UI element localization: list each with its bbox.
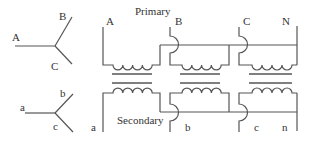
wye-label-a: A: [12, 31, 20, 43]
transformer-diagram: A B C a b c Primary A B C N: [0, 0, 312, 143]
secondary-winding-b: [170, 88, 229, 132]
secondary-winding-c: [239, 88, 297, 132]
secondary-wye-symbol: a b c: [20, 87, 73, 132]
terminal-c: c: [254, 121, 259, 133]
wye-label-b: B: [59, 10, 66, 22]
wye-label-c-secondary: c: [53, 120, 58, 132]
secondary-windings: Secondary a b c n: [91, 88, 297, 133]
primary-wye-symbol: A B C: [12, 10, 72, 72]
terminal-N: N: [282, 15, 290, 27]
terminal-n: n: [282, 121, 288, 133]
terminal-b: b: [185, 121, 191, 133]
wye-label-a-secondary: a: [20, 101, 25, 113]
primary-winding-b: [170, 27, 229, 70]
primary-windings: Primary A B C N: [103, 5, 297, 70]
primary-title: Primary: [135, 5, 171, 17]
terminal-C: C: [243, 15, 250, 27]
wye-label-c: C: [51, 60, 58, 72]
terminal-a: a: [91, 121, 96, 133]
transformer-cores: [112, 74, 292, 83]
terminal-A: A: [106, 15, 114, 27]
wye-label-b-secondary: b: [60, 87, 66, 99]
primary-winding-c: [239, 27, 297, 70]
secondary-title: Secondary: [117, 114, 164, 126]
primary-winding-a: [103, 27, 160, 70]
terminal-B: B: [175, 15, 182, 27]
